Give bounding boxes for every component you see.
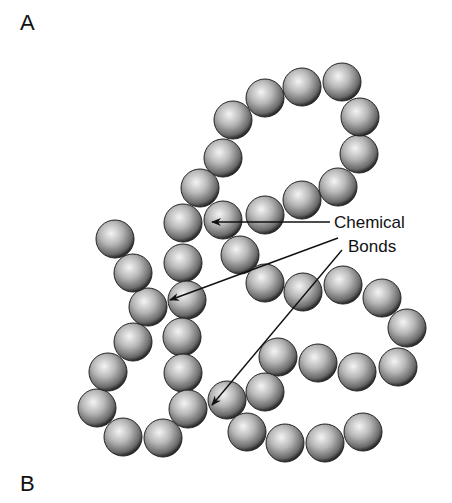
bead [266, 424, 304, 462]
annotation-bonds: Bonds [348, 237, 396, 256]
bead [246, 196, 284, 234]
bead [379, 348, 417, 386]
bead [323, 63, 361, 101]
polymer-chain-diagram: Chemical Bonds [0, 0, 452, 503]
bead [341, 98, 379, 136]
bead [144, 419, 182, 457]
bead [164, 354, 202, 392]
bead [114, 254, 152, 292]
bead [214, 101, 252, 139]
bead [96, 220, 134, 258]
bead [78, 389, 116, 427]
bead [89, 353, 127, 391]
bead [129, 288, 167, 326]
bead [299, 344, 337, 382]
bead [164, 204, 202, 242]
bead [344, 413, 382, 451]
bead [181, 169, 219, 207]
bead [246, 373, 284, 411]
bead-group [78, 63, 426, 462]
bead [114, 323, 152, 361]
bead [228, 413, 266, 451]
bead [284, 273, 322, 311]
bead [204, 201, 242, 239]
bead [283, 68, 321, 106]
bead [306, 424, 344, 462]
bead [246, 79, 284, 117]
bead [259, 338, 297, 376]
bead [169, 390, 207, 428]
bead [283, 181, 321, 219]
bead [340, 135, 378, 173]
bead [164, 244, 202, 282]
bead [324, 266, 362, 304]
bead [163, 318, 201, 356]
bead [388, 309, 426, 347]
annotation-chemical: Chemical [334, 213, 405, 232]
bead [363, 279, 401, 317]
bead [104, 418, 142, 456]
bead [319, 168, 357, 206]
bead [168, 281, 206, 319]
bead [338, 353, 376, 391]
